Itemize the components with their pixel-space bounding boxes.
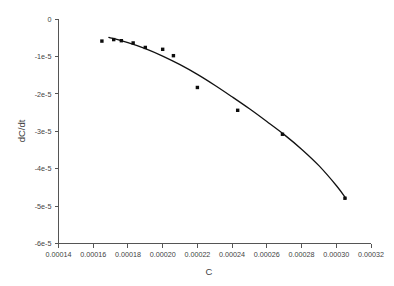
x-tick-label: 0.00030 xyxy=(323,250,349,259)
y-tick-label: 0 xyxy=(48,15,52,24)
fit-curve-group xyxy=(109,37,346,198)
data-point xyxy=(236,109,239,112)
x-tick-label: 0.00020 xyxy=(150,250,176,259)
x-axis-ticks: 0.000140.000160.000180.000200.000220.000… xyxy=(46,244,384,259)
data-point xyxy=(131,41,134,44)
data-point xyxy=(120,39,123,42)
y-axis-title: dC/dt xyxy=(16,119,27,142)
y-tick-label: -5e-5 xyxy=(35,202,52,211)
y-tick-label: -4e-5 xyxy=(35,164,52,173)
fit-curve xyxy=(109,37,346,198)
data-point xyxy=(144,46,147,49)
x-tick-label: 0.00024 xyxy=(219,250,245,259)
data-point xyxy=(281,133,284,136)
y-axis-ticks: 0-1e-5-2e-5-3e-5-4e-5-5e-5-6e-5 xyxy=(35,15,59,249)
data-point xyxy=(196,86,199,89)
data-point xyxy=(172,54,175,57)
x-tick-label: 0.00014 xyxy=(46,250,72,259)
data-point xyxy=(112,38,115,41)
y-tick-label: -1e-5 xyxy=(35,52,52,61)
chart-figure: 0.000140.000160.000180.000200.000220.000… xyxy=(0,0,394,286)
x-tick-label: 0.00016 xyxy=(80,250,106,259)
y-tick-label: -6e-5 xyxy=(35,239,52,248)
axes xyxy=(58,19,371,244)
data-points-group xyxy=(100,38,346,200)
x-tick-label: 0.00022 xyxy=(184,250,210,259)
x-axis-title: C xyxy=(206,266,213,277)
data-point xyxy=(100,39,103,42)
y-tick-label: -3e-5 xyxy=(35,127,52,136)
x-tick-label: 0.00028 xyxy=(289,250,315,259)
y-tick-label: -2e-5 xyxy=(35,90,52,99)
x-tick-label: 0.00026 xyxy=(254,250,280,259)
data-point xyxy=(343,197,346,200)
data-point xyxy=(161,48,164,51)
scatter-plot: 0.000140.000160.000180.000200.000220.000… xyxy=(0,0,394,286)
x-tick-label: 0.00032 xyxy=(358,250,384,259)
x-tick-label: 0.00018 xyxy=(115,250,141,259)
